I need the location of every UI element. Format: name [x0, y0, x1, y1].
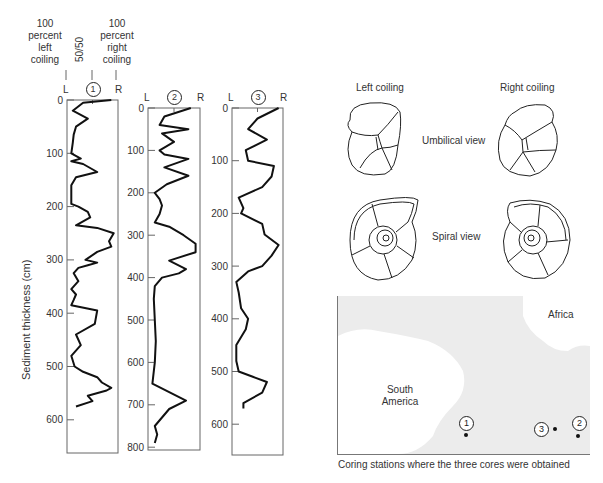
- core-id-badge: 3: [251, 90, 266, 105]
- station-2-id: 2: [572, 416, 587, 431]
- station-3-id: 3: [534, 422, 549, 437]
- y-tick-label: 300: [46, 254, 63, 265]
- station-1-id: 1: [459, 416, 474, 431]
- spiral-view-label: Spiral view: [432, 231, 480, 242]
- left-coiling-title: Left coiling: [356, 82, 404, 93]
- core-chart-3: 0100200300400500600: [211, 103, 283, 456]
- continent-text: America: [370, 396, 430, 408]
- y-tick-label: 200: [46, 201, 63, 212]
- station-3-marker: 3: [534, 422, 549, 437]
- y-tick-label: 400: [46, 308, 63, 319]
- y-tick-label: 0: [57, 95, 63, 106]
- right-coiling-title: Right coiling: [500, 82, 554, 93]
- y-tick-label: 600: [127, 357, 144, 368]
- station-1-marker: 1: [459, 416, 474, 431]
- africa-shape: [523, 296, 590, 351]
- south-america-label: South America: [370, 384, 430, 408]
- y-tick-label: 800: [127, 442, 144, 453]
- y-tick-label: 0: [222, 103, 228, 114]
- y-tick-label: 300: [211, 261, 228, 272]
- y-tick-label: 0: [138, 103, 144, 114]
- x-label-left: L: [228, 92, 234, 103]
- y-tick-label: 500: [127, 315, 144, 326]
- y-tick-label: 600: [46, 414, 63, 425]
- coiling-curve: [152, 108, 195, 443]
- y-tick-label: 500: [211, 366, 228, 377]
- y-tick-label: 300: [127, 230, 144, 241]
- umbilical-view-label: Umbilical view: [422, 135, 485, 146]
- station-2-marker: 2: [572, 416, 587, 431]
- y-tick-label: 100: [46, 148, 63, 159]
- y-tick-label: 200: [127, 187, 144, 198]
- y-tick-label: 500: [46, 361, 63, 372]
- station-3-dot: [553, 427, 557, 431]
- core-chart-2: 0100200300400500600700800: [127, 103, 200, 453]
- station-1-dot: [464, 433, 468, 437]
- station-2-dot: [576, 434, 580, 438]
- y-tick-label: 700: [127, 399, 144, 410]
- coiling-curve: [236, 108, 278, 408]
- continent-text: South: [370, 384, 430, 396]
- y-tick-label: 100: [211, 155, 228, 166]
- x-label-right: R: [197, 92, 204, 103]
- core-chart-1: 0100200300400500600: [46, 95, 118, 454]
- y-tick-label: 400: [211, 313, 228, 324]
- x-label-left: L: [63, 84, 69, 95]
- map-caption: Coring stations where the three cores we…: [338, 459, 570, 470]
- core-id-badge: 1: [86, 82, 101, 97]
- core-id-badge: 2: [167, 90, 182, 105]
- coiling-curve: [71, 100, 113, 407]
- africa-label: Africa: [548, 309, 574, 320]
- y-tick-label: 200: [211, 208, 228, 219]
- y-tick-label: 400: [127, 272, 144, 283]
- y-tick-label: 600: [211, 419, 228, 430]
- map-panel: South America Africa 1 3 2: [337, 296, 590, 455]
- x-label-right: R: [115, 84, 122, 95]
- x-label-right: R: [280, 92, 287, 103]
- y-tick-label: 100: [127, 145, 144, 156]
- x-label-left: L: [144, 92, 150, 103]
